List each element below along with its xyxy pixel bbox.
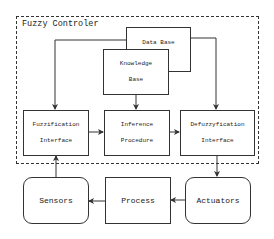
process-node: Process bbox=[105, 177, 171, 224]
sensors-node: Sensors bbox=[23, 177, 89, 224]
data-base-label: Data Base bbox=[142, 40, 174, 46]
fuzzy-controller-label: Fuzzy Controler bbox=[22, 19, 99, 29]
defuzzification-label-line1: Defuzzyfication bbox=[190, 122, 244, 128]
fuzzification-interface-node: Fuzzification Interface bbox=[23, 110, 89, 156]
fuzzification-label-line1: Fuzzification bbox=[33, 122, 80, 128]
knowledge-base-label-line1: Knowledge bbox=[120, 61, 152, 67]
actuators-label: Actuators bbox=[196, 197, 239, 205]
knowledge-base-node: Knowledge Base bbox=[103, 49, 169, 95]
inference-label-line1: Inference bbox=[121, 122, 153, 128]
defuzzification-label-line2: Interface bbox=[201, 138, 233, 144]
sensors-label: Sensors bbox=[39, 197, 73, 205]
fuzzification-label-line2: Interface bbox=[40, 138, 72, 144]
inference-procedure-node: Inference Procedure bbox=[104, 110, 170, 156]
process-label: Process bbox=[121, 197, 155, 205]
knowledge-base-label-line2: Base bbox=[129, 77, 143, 83]
inference-label-line2: Procedure bbox=[121, 138, 153, 144]
actuators-node: Actuators bbox=[185, 177, 251, 224]
defuzzification-interface-node: Defuzzyfication Interface bbox=[180, 110, 255, 156]
